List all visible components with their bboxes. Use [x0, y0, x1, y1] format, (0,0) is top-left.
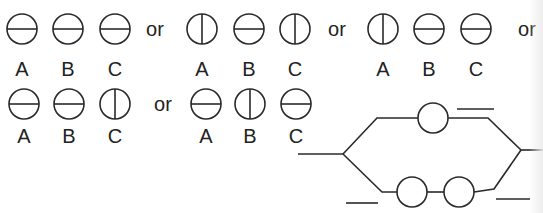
symbol-label: C	[469, 58, 483, 80]
circle-symbol-horizontal	[461, 14, 491, 44]
symbol-label: A	[376, 58, 390, 80]
circle-symbol-horizontal	[100, 14, 130, 44]
upper-element	[418, 103, 448, 133]
circle-symbol-horizontal	[414, 14, 444, 44]
symbol-label: A	[199, 125, 213, 147]
symbol-label: C	[288, 58, 302, 80]
symbol-label: B	[243, 125, 256, 147]
circle-symbol-horizontal	[191, 89, 221, 119]
symbol-label: B	[61, 58, 74, 80]
diagram-canvas: ABCABCABCorororABCABCor	[0, 0, 543, 213]
circle-symbol-horizontal	[7, 14, 37, 44]
symbol-label: B	[242, 58, 255, 80]
symbol-label: A	[195, 58, 209, 80]
upper-branch-right	[448, 118, 521, 150]
circle-symbol-vertical	[100, 89, 130, 119]
circle-symbol-vertical	[368, 14, 398, 44]
upper-branch-left	[343, 118, 418, 154]
symbol-label: A	[15, 58, 29, 80]
circle-symbol-horizontal	[9, 89, 39, 119]
circle-symbol-horizontal	[53, 14, 83, 44]
circle-symbol-vertical	[235, 89, 265, 119]
circle-symbol-horizontal	[281, 89, 311, 119]
symbol-label: C	[108, 58, 122, 80]
circle-symbol-horizontal	[234, 14, 264, 44]
lower-branch-right	[474, 150, 521, 192]
parallel-network	[298, 103, 543, 207]
lower-element-1	[397, 177, 427, 207]
symbol-label: B	[62, 125, 75, 147]
or-separator: or	[328, 18, 346, 40]
circle-symbol-vertical	[280, 14, 310, 44]
lower-element-2	[444, 177, 474, 207]
circle-symbol-horizontal	[54, 89, 84, 119]
lower-branch-left	[343, 154, 397, 192]
circle-symbol-vertical	[187, 14, 217, 44]
edge-shadow	[529, 0, 543, 213]
symbol-label: C	[289, 125, 303, 147]
symbol-label: B	[422, 58, 435, 80]
or-separator: or	[146, 18, 164, 40]
symbol-label: A	[17, 125, 31, 147]
symbol-label: C	[108, 125, 122, 147]
or-separator: or	[154, 93, 172, 115]
